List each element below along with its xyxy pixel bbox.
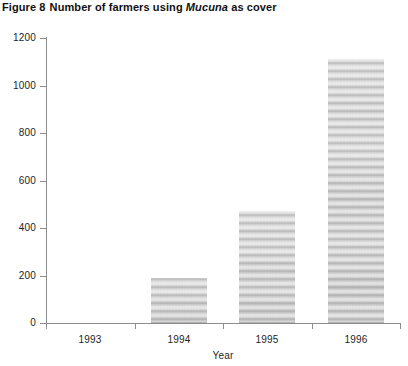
y-axis-tick-label: 600 bbox=[0, 176, 36, 186]
y-axis-tick bbox=[40, 133, 46, 134]
y-axis-tick bbox=[40, 276, 46, 277]
bar-1994 bbox=[151, 278, 207, 323]
y-axis-tick bbox=[40, 86, 46, 87]
y-axis-tick-label: 0 bbox=[0, 318, 36, 328]
bar-chart-plot: 020040060080010001200 1993199419951996 Y… bbox=[0, 0, 408, 366]
x-axis-tick bbox=[135, 323, 136, 329]
y-axis-tick-label: 200 bbox=[0, 271, 36, 281]
x-axis-tick bbox=[223, 323, 224, 329]
x-axis-tick-label: 1995 bbox=[223, 334, 311, 345]
x-axis-tick bbox=[46, 323, 47, 329]
x-axis-tick bbox=[400, 323, 401, 329]
x-axis-tick-label: 1994 bbox=[135, 334, 223, 345]
y-axis-tick bbox=[40, 181, 46, 182]
y-axis-tick-label: 1000 bbox=[0, 81, 36, 91]
bar-1996 bbox=[328, 59, 384, 323]
y-axis-tick bbox=[40, 228, 46, 229]
x-axis-tick-label: 1993 bbox=[46, 334, 134, 345]
x-axis-tick-label: 1996 bbox=[312, 334, 400, 345]
bar-1995 bbox=[239, 211, 295, 323]
y-axis-tick-label: 400 bbox=[0, 223, 36, 233]
y-axis-tick bbox=[40, 38, 46, 39]
y-axis-tick-label: 1200 bbox=[0, 33, 36, 43]
x-axis-title: Year bbox=[46, 350, 400, 361]
y-axis-line bbox=[46, 37, 47, 324]
y-axis-tick-label: 800 bbox=[0, 128, 36, 138]
x-axis-tick bbox=[312, 323, 313, 329]
